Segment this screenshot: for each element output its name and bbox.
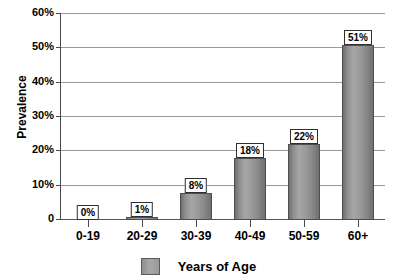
y-axis-tick-label: 60% bbox=[2, 7, 54, 18]
bars-layer: 0%1%8%18%22%51% bbox=[61, 13, 385, 220]
bar-group: 51% bbox=[331, 13, 385, 220]
chart-legend: Years of Age bbox=[0, 253, 397, 279]
y-axis-labels: 010%20%30%40%50%60% bbox=[0, 0, 54, 279]
x-axis-tick-mark bbox=[142, 220, 143, 227]
y-axis-tick-label: 40% bbox=[2, 76, 54, 87]
bar bbox=[288, 144, 320, 220]
bar bbox=[234, 158, 266, 220]
x-axis-tick-mark bbox=[250, 220, 251, 227]
x-axis-category-label: 60+ bbox=[348, 229, 368, 243]
bar-group: 22% bbox=[277, 13, 331, 220]
bar-group: 0% bbox=[61, 13, 115, 220]
x-axis-category-label: 20-29 bbox=[127, 229, 158, 243]
x-axis-category-label: 40-49 bbox=[235, 229, 266, 243]
x-axis-ticks bbox=[61, 220, 385, 228]
x-axis-category-label: 50-59 bbox=[289, 229, 320, 243]
bar bbox=[180, 193, 212, 220]
x-axis-category-label: 0-19 bbox=[76, 229, 100, 243]
bar-chart: Prevalence 010%20%30%40%50%60% 0%1%8%18%… bbox=[0, 0, 397, 279]
bar-group: 18% bbox=[223, 13, 277, 220]
x-axis-tick-mark bbox=[196, 220, 197, 227]
x-axis-category-label: 30-39 bbox=[181, 229, 212, 243]
y-axis-tick-label: 0 bbox=[2, 213, 54, 224]
bar-data-label: 22% bbox=[290, 129, 318, 144]
x-axis-tick-mark bbox=[88, 220, 89, 227]
y-axis-tick-label: 50% bbox=[2, 41, 54, 52]
x-axis-labels: 0-1920-2930-3940-4950-5960+ bbox=[61, 229, 385, 247]
bar-data-label: 51% bbox=[344, 30, 372, 45]
y-axis-tick-label: 20% bbox=[2, 144, 54, 155]
x-axis-tick-mark bbox=[304, 220, 305, 227]
bar-data-label: 18% bbox=[236, 143, 264, 158]
y-axis-tick-label: 10% bbox=[2, 179, 54, 190]
legend-label-years-of-age: Years of Age bbox=[178, 259, 256, 274]
bar-data-label: 1% bbox=[131, 202, 153, 217]
bar-data-label: 8% bbox=[185, 178, 207, 193]
bar bbox=[342, 45, 374, 220]
legend-swatch-years-of-age bbox=[141, 258, 160, 275]
x-axis-tick-mark bbox=[358, 220, 359, 227]
bar-group: 8% bbox=[169, 13, 223, 220]
y-axis-tick-label: 30% bbox=[2, 110, 54, 121]
bar-data-label: 0% bbox=[77, 205, 99, 220]
bar-group: 1% bbox=[115, 13, 169, 220]
